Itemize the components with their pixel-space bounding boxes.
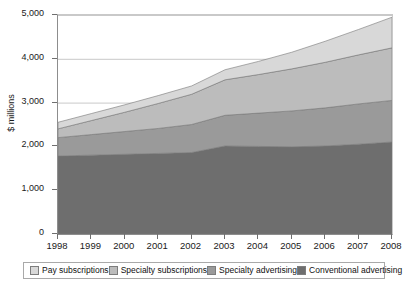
y-tick-label-3000: 3,000 <box>0 96 44 106</box>
legend-label-specialty-advertising: Specialty advertising <box>219 266 297 275</box>
y-tick-label-4000: 4,000 <box>0 52 44 62</box>
x-tick-2006 <box>324 234 325 239</box>
y-tick-label-2000: 2,000 <box>0 139 44 149</box>
x-tick-2004 <box>257 234 258 239</box>
plot-area: Conventional advertisingSpecialty advert… <box>57 14 393 235</box>
legend-item-specialty-advertising[interactable]: Specialty advertising <box>207 266 297 275</box>
legend-swatch-specialty-advertising <box>207 266 216 275</box>
x-tick-2001 <box>157 234 158 239</box>
y-tick-label-5000: 5,000 <box>0 8 44 18</box>
y-tick-label-1000: 1,000 <box>0 183 44 193</box>
chart-legend: Pay subscriptionsSpecialty subscriptions… <box>23 262 385 279</box>
x-tick-2008 <box>391 234 392 239</box>
legend-swatch-conventional-advertising <box>297 266 306 275</box>
x-tick-2000 <box>124 234 125 239</box>
x-tick-2007 <box>358 234 359 239</box>
legend-item-conventional-advertising[interactable]: Conventional advertising <box>297 266 402 275</box>
legend-label-specialty-subscriptions: Specialty subscriptions <box>121 266 207 275</box>
legend-item-pay-subscriptions[interactable]: Pay subscriptions <box>30 266 109 275</box>
y-axis-title: $ millions <box>6 78 16 148</box>
x-tick-label-2008: 2008 <box>371 240 409 251</box>
legend-item-specialty-subscriptions[interactable]: Specialty subscriptions <box>109 266 207 275</box>
area-conventional-advertising: Conventional advertising <box>58 142 392 234</box>
x-tick-2005 <box>291 234 292 239</box>
x-tick-1998 <box>57 234 58 239</box>
stacked-area-chart: $ millions 01,0002,0003,0004,0005,000 Co… <box>0 0 409 285</box>
x-tick-2003 <box>224 234 225 239</box>
x-tick-1999 <box>90 234 91 239</box>
y-tick-label-0: 0 <box>0 227 44 237</box>
x-tick-2002 <box>191 234 192 239</box>
legend-swatch-pay-subscriptions <box>30 266 39 275</box>
legend-label-conventional-advertising: Conventional advertising <box>309 266 402 275</box>
legend-label-pay-subscriptions: Pay subscriptions <box>42 266 109 275</box>
legend-swatch-specialty-subscriptions <box>109 266 118 275</box>
series-areas: Conventional advertisingSpecialty advert… <box>58 15 392 234</box>
